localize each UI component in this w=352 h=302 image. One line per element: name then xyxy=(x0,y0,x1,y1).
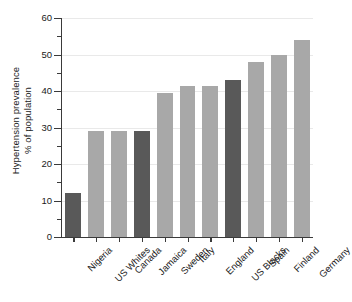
x-axis-tick xyxy=(279,237,280,242)
x-axis-tick xyxy=(210,237,211,242)
y-axis-tick-label: 20 xyxy=(12,159,52,169)
y-axis-title-line-1: Hypertension prevalence xyxy=(11,66,22,173)
y-axis-tick-label: 60 xyxy=(12,13,52,23)
bar-england xyxy=(202,86,218,237)
bar-canada xyxy=(111,131,127,237)
x-axis-tick xyxy=(302,237,303,242)
x-axis-tick-label-finland: Finland xyxy=(292,245,321,274)
y-axis-title-line-2: % of population xyxy=(22,66,34,173)
y-axis-tick-label: 30 xyxy=(12,123,52,133)
x-axis-tick xyxy=(233,237,234,242)
bar-germany xyxy=(294,40,310,237)
x-axis-tick xyxy=(142,237,143,242)
x-axis-tick-label-spain: Spain xyxy=(267,245,291,269)
y-axis-tick-label: 40 xyxy=(12,86,52,96)
x-axis-tick xyxy=(96,237,97,242)
bar-jamaica xyxy=(134,131,150,237)
y-axis-tick-label: 0 xyxy=(12,232,52,242)
bar-us-whites xyxy=(88,131,104,237)
plot-area xyxy=(62,18,313,237)
x-axis-tick-label-germany: Germany xyxy=(317,245,352,280)
bar-us-blacks xyxy=(225,80,241,237)
x-axis-tick xyxy=(256,237,257,242)
x-axis-tick xyxy=(73,237,74,242)
y-axis-tick-label: 10 xyxy=(12,196,52,206)
bar-sweden xyxy=(157,93,173,237)
x-axis-tick xyxy=(188,237,189,242)
x-axis-tick xyxy=(165,237,166,242)
bar-nigeria xyxy=(65,193,81,237)
y-axis-tick-label: 50 xyxy=(12,50,52,60)
bar-spain xyxy=(248,62,264,237)
x-axis-tick-label-nigeria: Nigeria xyxy=(86,245,114,273)
bar-finland xyxy=(271,55,287,238)
bar-italy xyxy=(180,86,196,237)
x-axis-tick xyxy=(119,237,120,242)
